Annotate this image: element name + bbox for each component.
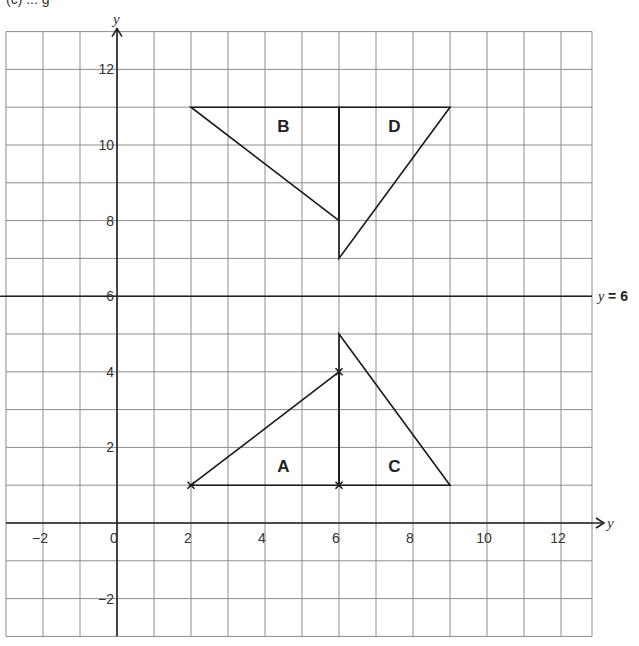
triangle-label: C xyxy=(388,457,400,476)
x-tick-label: 0 xyxy=(110,530,118,546)
triangle-label: B xyxy=(277,117,289,136)
x-axis-label: y xyxy=(605,515,614,531)
x-tick-label: −2 xyxy=(32,530,48,546)
y-axis-label: y xyxy=(111,11,120,27)
x-tick-label: 12 xyxy=(550,530,566,546)
axes: yy xyxy=(6,11,614,637)
y-tick-label: −2 xyxy=(98,591,114,607)
y-tick-label: 10 xyxy=(98,137,114,153)
y-tick-label: 6 xyxy=(106,288,114,304)
mirror-line-label: y = 6 xyxy=(596,288,628,304)
x-tick-label: 2 xyxy=(184,530,192,546)
triangle-label: A xyxy=(277,457,289,476)
y-tick-label: 12 xyxy=(98,61,114,77)
y-tick-label: 2 xyxy=(106,439,114,455)
y-tick-label: 4 xyxy=(106,364,114,380)
grid-lines xyxy=(6,32,592,637)
coordinate-grid: yy y = 6 ABCD −2024681012−224681012 xyxy=(0,0,639,646)
triangle-label: D xyxy=(388,117,400,136)
triangles: ABCD xyxy=(188,107,451,489)
x-tick-label: 6 xyxy=(332,530,340,546)
mirror-line-y-equals-6: y = 6 xyxy=(0,288,628,304)
y-tick-label: 8 xyxy=(106,213,114,229)
x-tick-label: 4 xyxy=(258,530,266,546)
x-tick-label: 8 xyxy=(406,530,414,546)
x-tick-label: 10 xyxy=(476,530,492,546)
